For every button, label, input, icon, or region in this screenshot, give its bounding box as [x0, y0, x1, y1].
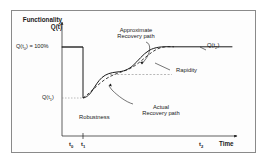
approximate-recovery-line2: Recovery path: [117, 33, 154, 39]
actual-recovery-line2: Recovery path: [142, 110, 179, 116]
y-axis-title: Functionality Q(t): [18, 16, 62, 30]
x-axis-title: Time: [219, 140, 234, 147]
annotation-end-value: Q(t2): [207, 42, 219, 48]
actual-recovery-line1: Actual: [153, 104, 169, 110]
resilience-curve-figure: Functionality Q(t) Q(t0) = 100% Q(t1) t0…: [0, 0, 267, 164]
annotation-robustness: Robustness: [79, 114, 110, 120]
annotation-actual-recovery: Actual Recovery path: [130, 104, 192, 117]
x-tick-label-t0: t0: [69, 141, 73, 147]
x-tick-label-t1: t1: [81, 141, 85, 147]
approximate-recovery-line1: Approximate: [120, 27, 153, 33]
y-axis-title-line1: Functionality: [23, 16, 62, 23]
end-value-leader: [200, 47, 206, 50]
rapidity-leader: [155, 63, 170, 70]
y-tick-label-q1: Q(t1): [42, 94, 54, 100]
y-tick-label-q0: Q(t0) = 100%: [16, 43, 49, 49]
annotation-approximate-recovery: Approximate Recovery path: [105, 27, 167, 40]
approximate-recovery-curve: [83, 47, 174, 98]
annotation-rapidity: Rapidity: [176, 67, 197, 73]
x-tick-label-t2: t2: [199, 141, 203, 147]
y-axis-title-line2: Q(t): [51, 23, 62, 30]
actual-recovery-leader: [109, 86, 133, 104]
actual-recovery-curve: [62, 47, 232, 98]
